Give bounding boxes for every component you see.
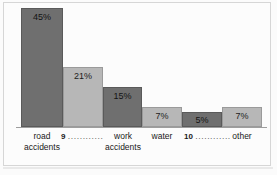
bar-value-label: 7% <box>155 111 168 121</box>
gap-number-9: 9 <box>61 132 65 141</box>
category-label-other: other <box>222 131 262 142</box>
bar-road-accidents: 45% <box>21 8 63 127</box>
gap-number-10: 10 <box>184 132 193 141</box>
chart-page: 45% 21% 15% 7% 5% 7% road accidents 9 <box>0 0 277 175</box>
category-label-line1: water <box>152 131 173 141</box>
category-label-line1: road <box>33 131 50 141</box>
category-label-line2: accidents <box>95 142 151 153</box>
category-label-line1: work <box>114 131 132 141</box>
bar-chart-plot-area: 45% 21% 15% 7% 5% 7% road accidents 9 <box>0 0 277 175</box>
bar-gap-10: 5% <box>182 112 222 127</box>
bar-work-accidents: 15% <box>103 87 142 127</box>
category-label-line2: accidents <box>14 142 70 153</box>
category-label-water: water <box>142 131 182 142</box>
bar-gap-9: 21% <box>63 67 103 127</box>
bar-water: 7% <box>142 107 182 127</box>
bar-value-label: 15% <box>113 91 131 101</box>
bar-value-label: 21% <box>74 71 92 81</box>
bar-value-label: 45% <box>33 12 51 22</box>
category-label-line1: other <box>232 131 251 141</box>
bar-value-label: 7% <box>235 111 248 121</box>
x-axis-baseline <box>16 127 267 128</box>
bar-value-label: 5% <box>195 115 208 125</box>
bar-other: 7% <box>222 107 262 127</box>
